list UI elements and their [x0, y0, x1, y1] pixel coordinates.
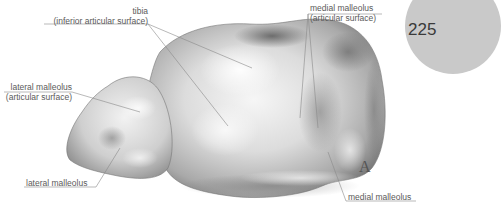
label-tibia-line1: tibia [28, 6, 148, 16]
lateral-facet [67, 77, 172, 179]
label-lateral-malleolus-line1: lateral malleolus [26, 178, 87, 188]
label-lateral-malleolus-articular-line2: (articular surface) [0, 92, 72, 102]
label-medial-malleolus-articular-line2: (articular surface) [310, 13, 376, 23]
label-medial-malleolus-articular: medial malleolus (articular surface) [310, 3, 376, 23]
label-tibia-line2: (inferior articular surface) [28, 16, 148, 26]
label-lateral-malleolus-articular: lateral malleolus (articular surface) [0, 82, 72, 102]
label-medial-malleolus-articular-line1: medial malleolus [310, 3, 376, 13]
label-medial-malleolus-line1: medial malleolus [348, 192, 411, 202]
talus-body [147, 19, 385, 198]
figure-letter: A [359, 158, 371, 176]
label-tibia: tibia (inferior articular surface) [28, 6, 148, 26]
label-lateral-malleolus: lateral malleolus [26, 178, 87, 188]
label-medial-malleolus: medial malleolus [348, 192, 411, 202]
label-lateral-malleolus-articular-line1: lateral malleolus [0, 82, 72, 92]
